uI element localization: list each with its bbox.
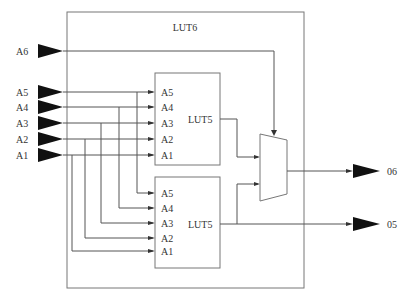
input-label-a4: A4 (16, 102, 28, 113)
lower-lut5-pin-a2: A2 (161, 233, 173, 244)
input-port-a6: A6 (16, 44, 63, 58)
output-port-o6: 06 (353, 164, 397, 178)
output-triangle-icon (353, 164, 380, 178)
output-port-o5: 05 (353, 217, 397, 231)
upper-lut5-pin-a1: A1 (161, 150, 173, 161)
input-label-a1: A1 (16, 150, 28, 161)
lut6-diagram: LUT6 A6 A5 A4 A3 A2 A1 (0, 0, 408, 303)
output-ports: 06 05 (353, 164, 397, 231)
input-port-a1: A1 (16, 148, 63, 162)
lower-lut5-pin-a1: A1 (161, 246, 173, 257)
input-triangle-icon (38, 132, 63, 146)
input-label-a6: A6 (16, 46, 28, 57)
input-port-a2: A2 (16, 132, 63, 146)
upper-lut5-label: LUT5 (188, 114, 212, 125)
input-port-a3: A3 (16, 116, 63, 130)
input-port-a4: A4 (16, 100, 63, 114)
upper-lut5-pin-a2: A2 (161, 134, 173, 145)
arrow-icon (346, 169, 353, 173)
input-triangle-icon (38, 44, 63, 58)
upper-lut5-pin-a4: A4 (161, 102, 173, 113)
input-triangle-icon (38, 85, 63, 99)
input-label-a2: A2 (16, 134, 28, 145)
input-label-a5: A5 (16, 87, 28, 98)
input-triangle-icon (38, 100, 63, 114)
input-port-a5: A5 (16, 85, 63, 99)
arrow-icon (346, 222, 353, 226)
input-triangle-icon (38, 116, 63, 130)
output-label-o5: 05 (387, 219, 397, 230)
lower-lut5-block: A5 A4 A3 A2 A1 LUT5 (155, 177, 220, 268)
output-label-o6: 06 (387, 166, 397, 177)
input-label-a3: A3 (16, 118, 28, 129)
input-triangle-icon (38, 148, 63, 162)
lower-lut5-label: LUT5 (188, 219, 212, 230)
output-triangle-icon (353, 217, 380, 231)
lut6-label: LUT6 (173, 22, 197, 33)
upper-lut5-pin-a5: A5 (161, 87, 173, 98)
lower-lut5-pin-a3: A3 (161, 218, 173, 229)
mux-icon (260, 134, 287, 201)
input-ports: A6 A5 A4 A3 A2 A1 (16, 44, 63, 162)
lower-lut5-pin-a5: A5 (161, 188, 173, 199)
upper-lut5-pin-a3: A3 (161, 118, 173, 129)
lower-lut5-pin-a4: A4 (161, 203, 173, 214)
upper-lut5-block: A5 A4 A3 A2 A1 LUT5 (155, 73, 220, 165)
